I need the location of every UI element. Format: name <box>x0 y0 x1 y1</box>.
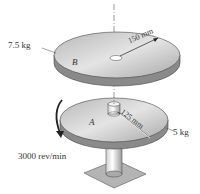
disk-b-mass-label: 7.5 kg <box>8 41 31 50</box>
mass-b-leader <box>42 48 56 53</box>
angular-speed-label: 3000 rev/min <box>18 152 66 161</box>
disk-b-letter: B <box>72 58 78 67</box>
disk-a-letter: A <box>89 118 95 127</box>
disk-a-mass-label: 5 kg <box>173 128 189 137</box>
disk-a <box>60 98 168 149</box>
disk-assembly-diagram <box>0 0 200 194</box>
